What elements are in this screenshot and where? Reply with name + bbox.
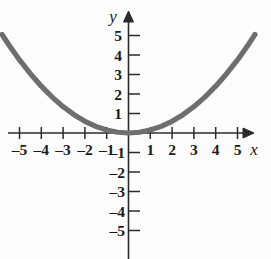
y-axis-label: y <box>107 7 117 26</box>
y-ticklabel-pos3: 3 <box>114 66 122 83</box>
y-ticklabel-neg1: –1 <box>109 144 126 161</box>
x-axis-label: x <box>249 140 258 159</box>
y-axis-arrow-icon <box>124 11 134 22</box>
y-ticklabel-pos4: 4 <box>114 47 122 64</box>
y-ticklabel-neg3: –3 <box>109 183 126 200</box>
x-ticklabel-pos4: 4 <box>212 141 220 158</box>
x-ticklabel-pos1: 1 <box>146 141 154 158</box>
y-ticklabel-pos2: 2 <box>114 86 122 103</box>
y-ticklabel-neg4: –4 <box>109 203 126 220</box>
x-ticklabel-neg2: –2 <box>76 141 93 158</box>
y-ticklabel-pos5: 5 <box>114 27 122 44</box>
coordinate-plane-svg: –5 –4 –3 –2 –1 1 2 3 4 5 5 4 3 2 1 –1 –2… <box>0 0 271 259</box>
y-ticklabel-pos1: 1 <box>114 105 122 122</box>
x-ticklabel-pos2: 2 <box>168 141 176 158</box>
x-axis-arrow-icon <box>243 128 254 138</box>
x-ticklabel-neg3: –3 <box>54 141 71 158</box>
x-ticklabel-neg4: –4 <box>33 141 50 158</box>
x-ticklabel-neg5: –5 <box>11 141 28 158</box>
y-ticklabel-neg2: –2 <box>109 164 126 181</box>
x-ticklabel-pos5: 5 <box>234 141 242 158</box>
graph-figure: –5 –4 –3 –2 –1 1 2 3 4 5 5 4 3 2 1 –1 –2… <box>0 0 271 259</box>
y-ticklabel-neg5: –5 <box>109 222 126 239</box>
x-ticklabel-pos3: 3 <box>190 141 198 158</box>
